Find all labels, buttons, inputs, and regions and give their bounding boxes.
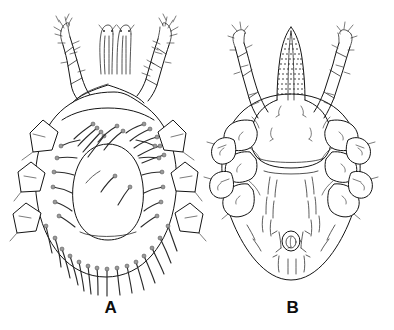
- panel-label-a: A: [0, 299, 222, 316]
- coxal-plates-b-left: [204, 117, 261, 219]
- panel-b-drawing: [204, 22, 378, 280]
- leg-a-right: [137, 14, 178, 101]
- gnathosoma-b: [277, 27, 305, 100]
- leg-a-left: [54, 14, 90, 100]
- panel-label-b: B: [205, 299, 381, 316]
- mite-figure-svg: [0, 0, 394, 330]
- panel-a-drawing: [10, 14, 206, 296]
- chelicerae-group: [99, 25, 134, 74]
- coxal-plates-b-right: [321, 117, 378, 219]
- figure-canvas: A B: [0, 0, 394, 330]
